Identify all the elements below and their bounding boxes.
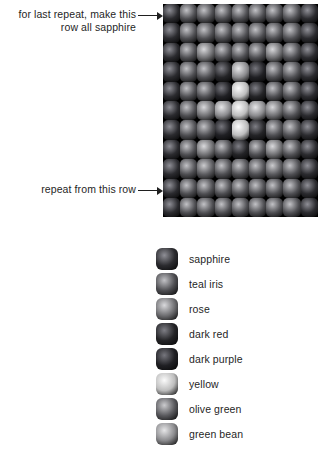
bead-r5-c2 bbox=[180, 82, 197, 101]
bead-r9-c1 bbox=[163, 159, 180, 178]
bead-r3-c8 bbox=[283, 43, 300, 62]
legend-swatch-yellow bbox=[156, 373, 178, 395]
bead-r6-c8 bbox=[283, 101, 300, 120]
bead-r6-c4 bbox=[215, 101, 232, 120]
bead-r3-c5 bbox=[232, 43, 249, 62]
legend-item-rose: rose bbox=[156, 296, 322, 321]
bead-r9-c9 bbox=[301, 159, 318, 178]
bead-r2-c3 bbox=[197, 23, 214, 42]
arrow-shaft bbox=[138, 15, 159, 16]
bead-r4-c4 bbox=[215, 62, 232, 81]
legend-swatch-dark-purple bbox=[156, 348, 178, 370]
bead-r1-c8 bbox=[283, 4, 300, 23]
legend-label: dark purple bbox=[189, 353, 243, 365]
legend-item-olive-green: olive green bbox=[156, 396, 322, 421]
bead-r8-c5 bbox=[232, 140, 249, 159]
bead-r11-c4 bbox=[215, 198, 232, 217]
bead-r3-c4 bbox=[215, 43, 232, 62]
bead-r10-c2 bbox=[180, 179, 197, 198]
annotation-bottom-note: repeat from this row bbox=[0, 183, 136, 196]
bead-r11-c3 bbox=[197, 198, 214, 217]
bead-r6-c2 bbox=[180, 101, 197, 120]
bead-r3-c2 bbox=[180, 43, 197, 62]
bead-r4-c3 bbox=[197, 62, 214, 81]
bead-r7-c6 bbox=[249, 120, 266, 139]
bead-r1-c5 bbox=[232, 4, 249, 23]
legend-item-green-bean: green bean bbox=[156, 421, 322, 446]
bead-r7-c3 bbox=[197, 120, 214, 139]
bead-r6-c3 bbox=[197, 101, 214, 120]
bead-r1-c6 bbox=[249, 4, 266, 23]
bead-r2-c7 bbox=[266, 23, 283, 42]
bead-r10-c5 bbox=[232, 179, 249, 198]
legend-item-sapphire: sapphire bbox=[156, 246, 322, 271]
bead-r8-c1 bbox=[163, 140, 180, 159]
bead-r9-c2 bbox=[180, 159, 197, 178]
legend-swatch-teal-iris bbox=[156, 273, 178, 295]
bead-r1-c2 bbox=[180, 4, 197, 23]
bead-r2-c2 bbox=[180, 23, 197, 42]
arrow-right-icon-top bbox=[138, 11, 164, 20]
bead-r4-c6 bbox=[249, 62, 266, 81]
bead-r1-c9 bbox=[301, 4, 318, 23]
bead-r5-c1 bbox=[163, 82, 180, 101]
bead-r11-c5 bbox=[232, 198, 249, 217]
legend-label: green bean bbox=[189, 428, 243, 440]
bead-r3-c1 bbox=[163, 43, 180, 62]
bead-r5-c7 bbox=[266, 82, 283, 101]
legend-item-yellow: yellow bbox=[156, 371, 322, 396]
bead-r10-c1 bbox=[163, 179, 180, 198]
arrow-right-icon-bottom bbox=[138, 186, 164, 195]
bead-r7-c1 bbox=[163, 120, 180, 139]
bead-r11-c2 bbox=[180, 198, 197, 217]
bead-r2-c9 bbox=[301, 23, 318, 42]
bead-r8-c3 bbox=[197, 140, 214, 159]
bead-r2-c6 bbox=[249, 23, 266, 42]
legend-swatch-dark-red bbox=[156, 323, 178, 345]
legend-label: rose bbox=[189, 303, 210, 315]
bead-r5-c8 bbox=[283, 82, 300, 101]
legend-swatch-sapphire bbox=[156, 248, 178, 270]
bead-r6-c7 bbox=[266, 101, 283, 120]
bead-r9-c4 bbox=[215, 159, 232, 178]
bead-r9-c8 bbox=[283, 159, 300, 178]
legend-item-teal-iris: teal iris bbox=[156, 271, 322, 296]
bead-r10-c7 bbox=[266, 179, 283, 198]
bead-r7-c5 bbox=[232, 120, 249, 139]
bead-r10-c6 bbox=[249, 179, 266, 198]
bead-r4-c7 bbox=[266, 62, 283, 81]
bead-r10-c3 bbox=[197, 179, 214, 198]
bead-r11-c8 bbox=[283, 198, 300, 217]
bead-r6-c1 bbox=[163, 101, 180, 120]
bead-r5-c5 bbox=[232, 82, 249, 101]
legend-item-dark-red: dark red bbox=[156, 321, 322, 346]
bead-r5-c3 bbox=[197, 82, 214, 101]
bead-r3-c6 bbox=[249, 43, 266, 62]
bead-r7-c9 bbox=[301, 120, 318, 139]
legend-item-dark-purple: dark purple bbox=[156, 346, 322, 371]
bead-r9-c7 bbox=[266, 159, 283, 178]
bead-r4-c2 bbox=[180, 62, 197, 81]
legend-label: teal iris bbox=[189, 278, 223, 290]
bead-r9-c5 bbox=[232, 159, 249, 178]
bead-r6-c9 bbox=[301, 101, 318, 120]
bead-r6-c6 bbox=[249, 101, 266, 120]
bead-r8-c9 bbox=[301, 140, 318, 159]
bead-r7-c4 bbox=[215, 120, 232, 139]
bead-r8-c8 bbox=[283, 140, 300, 159]
bead-r3-c9 bbox=[301, 43, 318, 62]
legend-swatch-olive-green bbox=[156, 398, 178, 420]
bead-r1-c3 bbox=[197, 4, 214, 23]
bead-r2-c4 bbox=[215, 23, 232, 42]
bead-r9-c3 bbox=[197, 159, 214, 178]
legend-swatch-rose bbox=[156, 298, 178, 320]
bead-r5-c6 bbox=[249, 82, 266, 101]
bead-r1-c1 bbox=[163, 4, 180, 23]
bead-r7-c2 bbox=[180, 120, 197, 139]
bead-r8-c2 bbox=[180, 140, 197, 159]
bead-r9-c6 bbox=[249, 159, 266, 178]
bead-r11-c7 bbox=[266, 198, 283, 217]
bead-r10-c9 bbox=[301, 179, 318, 198]
bead-r8-c6 bbox=[249, 140, 266, 159]
bead-r11-c9 bbox=[301, 198, 318, 217]
